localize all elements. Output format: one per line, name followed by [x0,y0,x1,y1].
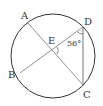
angle-arc-e [57,47,58,54]
circle-diagram: A B C D E 56° [0,0,103,106]
segment-ac [27,22,83,85]
label-c: C [83,89,91,100]
label-a: A [20,10,29,21]
circle [11,14,95,98]
segment-bd [20,27,83,73]
angle-arc-d [77,32,83,35]
label-d: D [84,16,92,27]
angle-label: 56° [67,39,81,48]
label-b: B [8,69,15,80]
label-e: E [48,35,55,46]
